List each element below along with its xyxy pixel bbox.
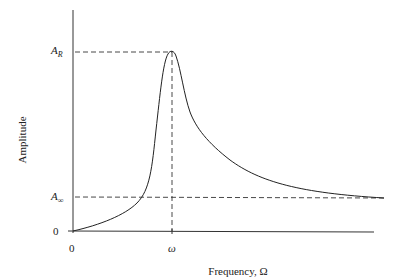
y-zero-label: 0 <box>53 225 59 237</box>
a-infinity-label: A∞ <box>51 190 63 207</box>
x-zero-label: 0 <box>69 242 75 254</box>
a-r-label: AR <box>51 44 63 61</box>
y-axis-title: Amplitude <box>16 116 28 163</box>
resonance-diagram: AR A∞ 0 0 ω Amplitude Frequency, Ω <box>0 0 404 277</box>
x-axis-title: Frequency, Ω <box>208 265 267 277</box>
a-infinity-guide <box>75 197 384 198</box>
omega-label: ω <box>168 242 176 254</box>
amplitude-curve <box>73 51 384 231</box>
plot-area <box>0 0 404 277</box>
x-axis <box>68 231 374 232</box>
